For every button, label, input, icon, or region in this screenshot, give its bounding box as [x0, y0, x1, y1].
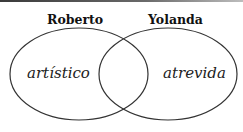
set-label-yolanda: Yolanda: [148, 12, 203, 27]
item-atrevida: atrevida: [163, 64, 226, 82]
set-label-roberto: Roberto: [47, 12, 103, 27]
item-artistico: artístico: [27, 64, 90, 82]
